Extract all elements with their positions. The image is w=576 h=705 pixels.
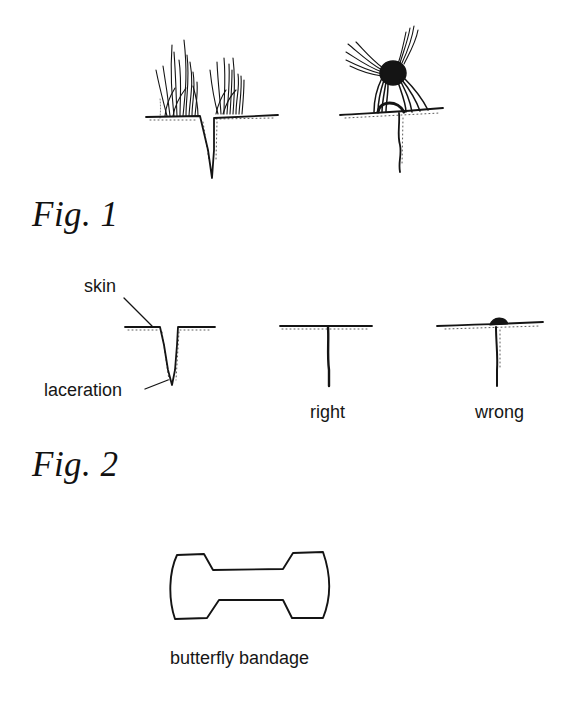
open-wound-hair-drawing (146, 40, 278, 178)
butterfly-bandage-drawing (170, 552, 329, 619)
butterfly-bandage-label: butterfly bandage (170, 648, 309, 669)
laceration-leader-line (145, 380, 168, 389)
illustration-canvas (0, 0, 576, 705)
skin-leader-line (124, 298, 152, 326)
right-closure-drawing (280, 326, 372, 386)
tied-hair-drawing (340, 26, 443, 172)
wrong-closure-drawing (437, 318, 543, 386)
laceration-label: laceration (44, 380, 122, 401)
right-label: right (310, 402, 345, 423)
figure-2-caption: Fig. 2 (32, 445, 119, 485)
wrong-label: wrong (475, 402, 524, 423)
figure-1-caption: Fig. 1 (32, 195, 119, 235)
skin-label: skin (84, 276, 116, 297)
laceration-diagram (124, 298, 215, 389)
